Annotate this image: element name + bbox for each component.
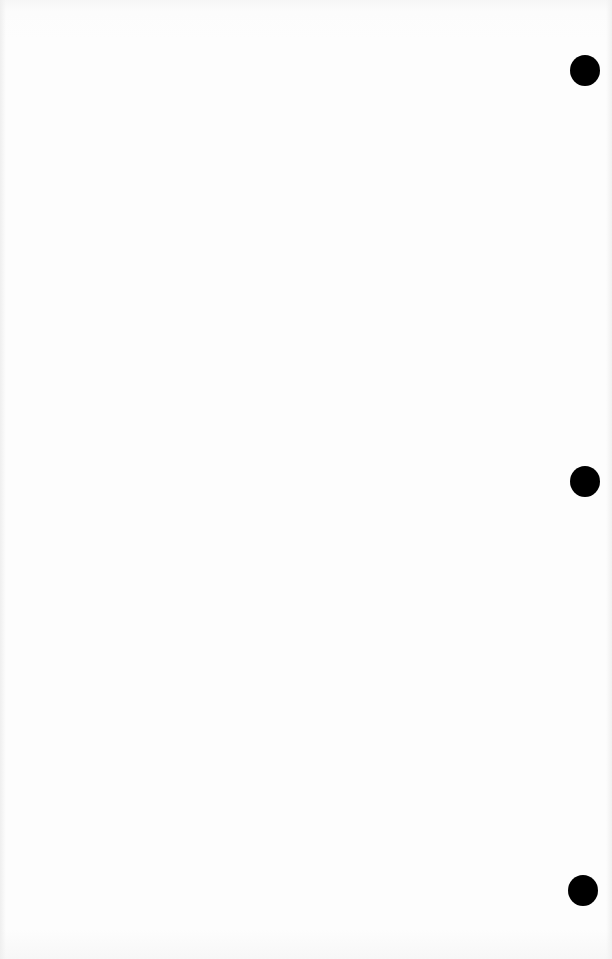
page-edge-shadow-right <box>606 0 612 959</box>
punch-hole-bottom <box>568 875 598 906</box>
punch-hole-top <box>570 55 600 86</box>
punch-hole-middle <box>570 466 600 497</box>
blank-document-page <box>0 0 612 959</box>
page-edge-shadow-left <box>0 0 6 959</box>
